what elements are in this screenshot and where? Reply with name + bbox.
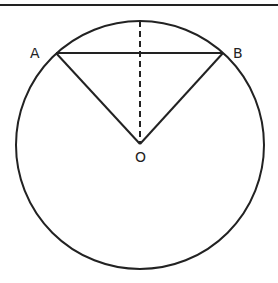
label-a: A (30, 45, 40, 61)
circle-chord-diagram: A B O (0, 0, 278, 283)
circle (16, 21, 264, 269)
label-o: O (135, 149, 146, 165)
radius-ob (140, 53, 223, 144)
radius-oa (56, 53, 140, 144)
label-b: B (233, 45, 243, 61)
